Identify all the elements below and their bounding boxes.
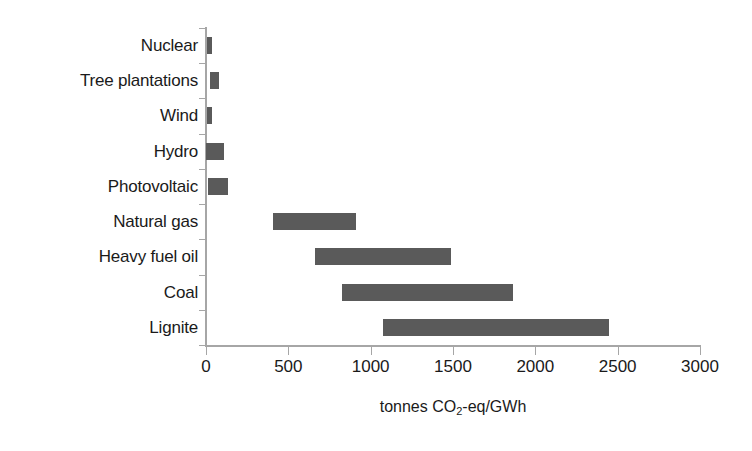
y-axis-category-labels: NuclearTree plantationsWindHydroPhotovol… (0, 28, 198, 345)
range-bar (210, 72, 219, 89)
x-axis-tick (371, 347, 372, 355)
y-axis-tick (199, 345, 206, 346)
y-axis-tick (199, 204, 206, 205)
x-axis-title-prefix: tonnes CO (380, 398, 456, 415)
chart-container: NuclearTree plantationsWindHydroPhotovol… (0, 0, 752, 451)
y-axis-label-nuclear: Nuclear (0, 28, 198, 63)
category-row (206, 204, 700, 239)
y-axis-tick (199, 98, 206, 99)
x-axis-title-subscript: 2 (456, 405, 462, 417)
y-axis-label-photovoltaic: Photovoltaic (0, 169, 198, 204)
y-axis-tick (199, 28, 206, 29)
category-row (206, 169, 700, 204)
y-axis-tick (199, 169, 206, 170)
x-axis-tick-labels: 050010001500200025003000 (0, 357, 752, 387)
x-axis-tick-label: 1500 (434, 357, 472, 377)
x-axis-title: tonnes CO2-eq/GWh (205, 398, 701, 416)
range-bar (207, 107, 211, 124)
x-axis-tick-label: 1000 (352, 357, 390, 377)
x-axis-tick-label: 500 (274, 357, 302, 377)
y-axis-tick (199, 310, 206, 311)
y-axis-label-tree-plantations: Tree plantations (0, 63, 198, 98)
y-axis-tick (199, 239, 206, 240)
x-axis-tick (206, 347, 207, 355)
x-axis-tick (288, 347, 289, 355)
category-row (206, 28, 700, 63)
range-bar (206, 143, 224, 160)
x-axis-tick (618, 347, 619, 355)
category-row (206, 98, 700, 133)
range-bar (207, 37, 212, 54)
y-axis-tick (199, 63, 206, 64)
y-axis-tick (199, 134, 206, 135)
range-bar (342, 284, 513, 301)
x-axis-tick (453, 347, 454, 355)
x-axis-tick (700, 347, 701, 355)
range-bar (383, 319, 609, 336)
category-row (206, 239, 700, 274)
x-axis-tick-label: 2500 (599, 357, 637, 377)
y-axis-label-coal: Coal (0, 275, 198, 310)
y-axis-label-lignite: Lignite (0, 310, 198, 345)
range-bar (273, 213, 356, 230)
category-row (206, 134, 700, 169)
x-axis-tick-label: 2000 (516, 357, 554, 377)
category-row (206, 63, 700, 98)
category-row (206, 310, 700, 345)
range-bar (208, 178, 228, 195)
x-axis-tick-label: 3000 (681, 357, 719, 377)
y-axis-label-heavy-fuel-oil: Heavy fuel oil (0, 239, 198, 274)
x-axis-tick-label: 0 (201, 357, 210, 377)
x-axis-tick (535, 347, 536, 355)
range-bar (315, 248, 452, 265)
y-axis-label-natural-gas: Natural gas (0, 204, 198, 239)
y-axis-label-wind: Wind (0, 98, 198, 133)
x-axis-title-suffix: -eq/GWh (462, 398, 526, 415)
y-axis-label-hydro: Hydro (0, 134, 198, 169)
y-axis-tick (199, 275, 206, 276)
category-row (206, 275, 700, 310)
plot-area (206, 28, 700, 345)
